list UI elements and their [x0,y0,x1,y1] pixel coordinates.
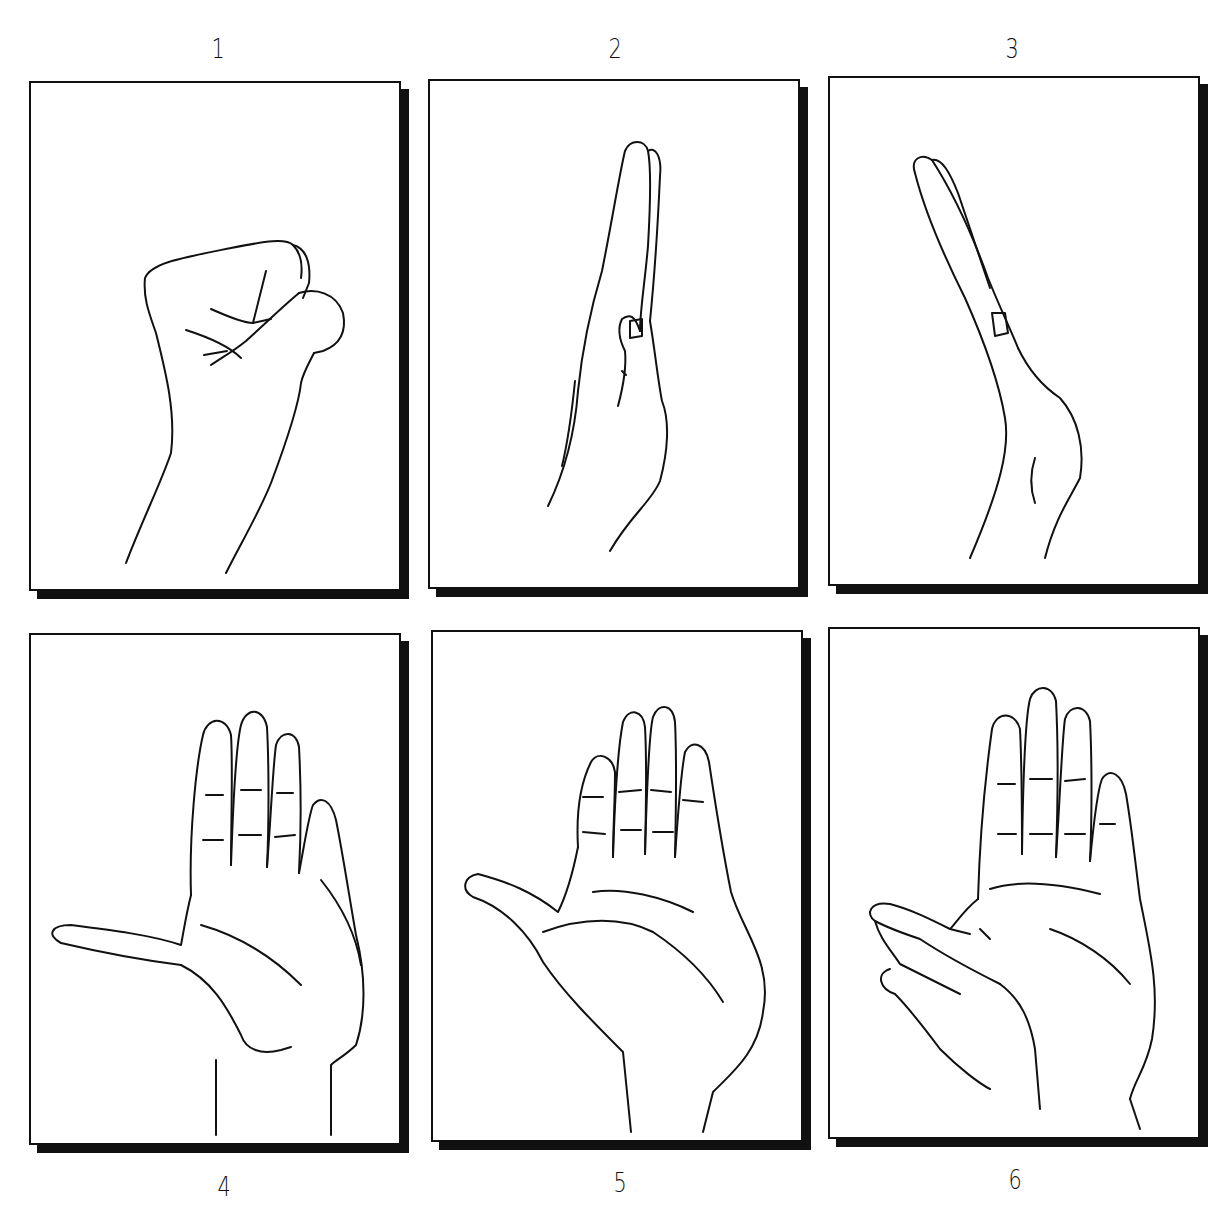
panel-label-1: 1 [194,34,242,64]
panel-2-hand-edge [428,79,800,589]
thumb-stretch-illustration-icon [830,629,1198,1137]
panel-3-wrist-bent [828,76,1200,586]
panel-label-4: 4 [200,1172,248,1202]
panel-label-2: 2 [591,34,639,64]
panel-5-thumb-partial [431,630,803,1142]
panel-label-6: 6 [991,1165,1039,1195]
panel-label-3: 3 [988,34,1036,64]
panel-1-fist [29,81,401,591]
panel-4-thumb-abducted [29,633,401,1145]
panel-label-5: 5 [596,1168,644,1198]
hand-edge-illustration-icon [430,81,798,587]
panel-6-thumb-stretch [828,627,1200,1139]
fist-illustration-icon [31,83,399,589]
thumb-partial-illustration-icon [433,632,801,1140]
thumb-abducted-illustration-icon [31,635,399,1143]
wrist-bent-illustration-icon [830,78,1198,584]
